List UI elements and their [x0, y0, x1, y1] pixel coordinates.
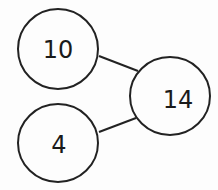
whole-value-14: 14 — [163, 86, 194, 114]
part-circle-10: 10 — [18, 9, 98, 89]
part-value-10: 10 — [43, 36, 74, 64]
part-circle-4: 4 — [18, 104, 98, 182]
number-bond-diagram: 10 4 14 — [0, 0, 218, 190]
connector-10-to-14 — [99, 56, 138, 71]
connector-4-to-14 — [99, 118, 136, 132]
part-value-4: 4 — [51, 131, 66, 159]
whole-circle-14: 14 — [130, 57, 210, 135]
